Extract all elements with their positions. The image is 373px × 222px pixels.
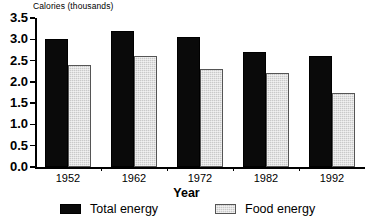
x-axis-tick bbox=[167, 167, 168, 171]
y-axis-tick bbox=[30, 102, 35, 103]
x-axis-tick-label-1992: 1992 bbox=[299, 172, 365, 185]
bar-total-energy-1972 bbox=[177, 37, 200, 167]
y-axis-tick-label: 2.5 bbox=[10, 53, 28, 68]
x-axis-tick bbox=[233, 167, 234, 171]
bar-total-energy-1952 bbox=[45, 39, 68, 167]
legend-swatch-icon-food-energy bbox=[215, 204, 236, 214]
y-axis-tick bbox=[30, 39, 35, 40]
x-axis-tick bbox=[299, 167, 300, 171]
y-axis-tick bbox=[30, 145, 35, 146]
plot-area: 3.53.02.52.01.51.00.50.0 bbox=[35, 18, 365, 167]
legend-label-food-energy: Food energy bbox=[245, 202, 315, 216]
y-axis-title: Calories (thousands) bbox=[33, 1, 113, 11]
x-axis-tick bbox=[101, 167, 102, 171]
bar-total-energy-1992 bbox=[309, 56, 332, 167]
bar-food-energy-1962 bbox=[134, 56, 157, 167]
legend-item-food-energy: Food energy bbox=[215, 202, 315, 216]
bar-food-energy-1952 bbox=[68, 65, 91, 167]
x-axis-title: Year bbox=[0, 186, 373, 200]
y-axis-tick-label: 0.0 bbox=[10, 159, 28, 174]
y-axis-tick-label: 3.5 bbox=[10, 10, 28, 25]
bar-food-energy-1992 bbox=[332, 93, 355, 168]
legend-label-total-energy: Total energy bbox=[90, 202, 158, 216]
y-axis-line bbox=[35, 18, 37, 167]
x-axis-tick-label-1982: 1982 bbox=[233, 172, 299, 185]
bar-chart: Calories (thousands) 3.53.02.52.01.51.00… bbox=[0, 0, 373, 222]
x-axis-line bbox=[35, 167, 365, 169]
legend-item-total-energy: Total energy bbox=[60, 202, 158, 216]
y-axis-tick-label: 1.0 bbox=[10, 116, 28, 131]
bar-food-energy-1972 bbox=[200, 69, 223, 167]
y-axis-tick bbox=[30, 124, 35, 125]
x-axis-tick-label-1952: 1952 bbox=[35, 172, 101, 185]
y-axis-tick bbox=[30, 17, 35, 18]
y-axis-tick-label: 3.0 bbox=[10, 31, 28, 46]
y-axis-tick-label: 0.5 bbox=[10, 138, 28, 153]
chart-legend: Total energy Food energy bbox=[0, 202, 373, 220]
bar-total-energy-1982 bbox=[243, 52, 266, 167]
bar-group bbox=[111, 18, 157, 167]
x-axis-tick-label-1972: 1972 bbox=[167, 172, 233, 185]
bar-group bbox=[309, 18, 355, 167]
bar-total-energy-1962 bbox=[111, 31, 134, 167]
bar-group bbox=[243, 18, 289, 167]
y-axis-tick bbox=[30, 81, 35, 82]
bar-group bbox=[177, 18, 223, 167]
y-axis-tick-label: 1.5 bbox=[10, 95, 28, 110]
bar-group bbox=[45, 18, 91, 167]
legend-swatch-icon-total-energy bbox=[60, 204, 81, 214]
bar-food-energy-1982 bbox=[266, 73, 289, 167]
y-axis-tick bbox=[30, 60, 35, 61]
y-axis-tick-label: 2.0 bbox=[10, 74, 28, 89]
x-axis-tick-label-1962: 1962 bbox=[101, 172, 167, 185]
y-axis-tick bbox=[30, 166, 35, 167]
